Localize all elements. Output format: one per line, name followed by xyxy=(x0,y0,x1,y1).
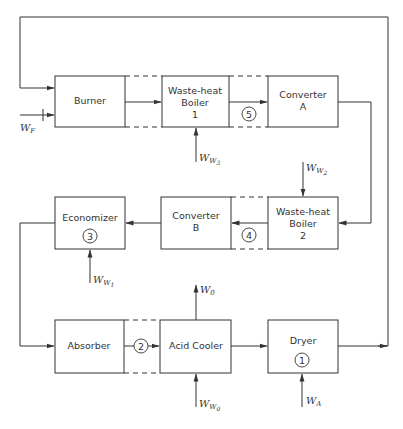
label-wf: WF xyxy=(20,122,36,135)
svg-text:Absorber: Absorber xyxy=(68,340,111,351)
unit-acid-cooler: Acid Cooler xyxy=(160,320,231,373)
svg-text:1: 1 xyxy=(299,355,305,366)
svg-text:Dryer: Dryer xyxy=(290,335,317,346)
svg-text:WA: WA xyxy=(306,395,321,408)
svg-text:3: 3 xyxy=(87,231,93,242)
svg-text:WW3: WW3 xyxy=(199,152,220,166)
water-input-ww0: WW0 xyxy=(196,374,220,412)
water-input-ww2: WW2 xyxy=(303,162,327,196)
dashed-link-whb1-converter-a: 5 xyxy=(229,76,268,127)
unit-economizer: Economizer 3 xyxy=(55,197,125,249)
svg-text:Boiler: Boiler xyxy=(289,218,316,229)
dashed-link-absorber-acid-cooler: 2 xyxy=(124,320,160,373)
flow-converter-a-to-whb2 xyxy=(338,102,371,223)
svg-text:2: 2 xyxy=(300,230,306,241)
unit-waste-heat-boiler-2: Waste-heat Boiler 2 xyxy=(268,197,338,249)
unit-absorber: Absorber xyxy=(55,320,124,373)
svg-text:Converter: Converter xyxy=(279,89,326,100)
svg-text:Burner: Burner xyxy=(74,95,106,106)
unit-waste-heat-boiler-1: Waste-heat Boiler 1 xyxy=(162,76,229,127)
svg-text:4: 4 xyxy=(246,230,252,241)
dashed-link-burner-whb1 xyxy=(125,76,162,127)
svg-text:Boiler: Boiler xyxy=(181,97,208,108)
svg-text:Waste-heat: Waste-heat xyxy=(168,85,222,96)
water-input-ww3: WW3 xyxy=(196,128,220,166)
unit-converter-b: Converter B xyxy=(161,197,231,249)
svg-text:W0: W0 xyxy=(200,284,215,297)
svg-text:WW1: WW1 xyxy=(93,274,114,288)
fuel-feed-stream: WF xyxy=(20,109,54,135)
svg-text:WW0: WW0 xyxy=(199,398,220,412)
flow-economizer-to-absorber xyxy=(20,223,55,346)
process-flow-diagram: WF Burner Waste-heat Boiler 1 5 Converte… xyxy=(0,0,403,429)
svg-text:1: 1 xyxy=(192,109,198,120)
svg-text:B: B xyxy=(193,222,200,233)
dashed-link-whb2-converter-b: 4 xyxy=(231,197,268,249)
svg-text:Converter: Converter xyxy=(172,210,219,221)
recycle-loop-line xyxy=(20,17,388,346)
unit-converter-a: Converter A xyxy=(268,76,338,127)
air-input-wa: WA xyxy=(302,374,321,408)
svg-text:A: A xyxy=(300,101,307,112)
svg-text:Waste-heat: Waste-heat xyxy=(276,206,330,217)
svg-text:2: 2 xyxy=(138,341,144,352)
acid-output-w0: W0 xyxy=(196,284,215,320)
svg-text:WW2: WW2 xyxy=(306,162,327,176)
water-input-ww1: WW1 xyxy=(90,250,114,288)
svg-text:5: 5 xyxy=(246,109,252,120)
svg-text:Acid Cooler: Acid Cooler xyxy=(169,340,223,351)
unit-dryer: Dryer 1 xyxy=(268,320,338,373)
unit-burner: Burner xyxy=(55,76,125,127)
svg-text:Economizer: Economizer xyxy=(62,212,118,223)
